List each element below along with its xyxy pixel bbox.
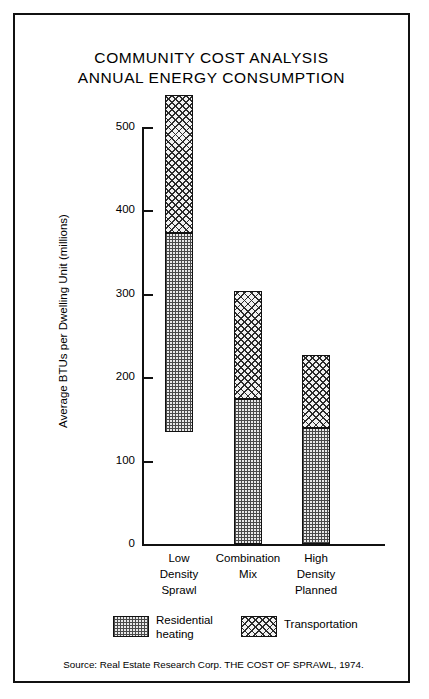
x-axis-line — [142, 544, 385, 546]
y-tick-300 — [144, 294, 153, 296]
legend-label-residential-heating: Residential heating — [156, 613, 213, 641]
y-tick-200 — [144, 377, 153, 379]
legend-label-line-1: Residential — [156, 613, 213, 627]
bar-segment-residential-heating — [302, 428, 330, 544]
bar-segment-residential-heating — [234, 399, 262, 544]
y-tick-label-200: 200 — [91, 370, 135, 382]
bar-segment-transportation — [165, 95, 193, 233]
bar-segment-residential-heating — [165, 233, 193, 432]
chart-legend: Residential heating Transportation — [113, 613, 363, 643]
y-axis-title: Average BTUs per Dwelling Unit (millions… — [57, 211, 69, 431]
bar-segment-transportation — [302, 355, 330, 428]
bar-chart: 500 400 300 200 100 0 Average BTUs per D… — [15, 15, 412, 685]
legend-label-transportation: Transportation — [284, 617, 358, 631]
y-tick-label-500: 500 — [91, 120, 135, 132]
source-note: Source: Real Estate Research Corp. THE C… — [15, 659, 412, 670]
figure-frame: COMMUNITY COST ANALYSIS ANNUAL ENERGY CO… — [13, 13, 410, 683]
x-category-label-high-density-planned: High Density Planned — [264, 550, 368, 598]
legend-label-line-2: heating — [156, 627, 213, 641]
bar-segment-transportation — [234, 291, 262, 399]
y-axis-line — [142, 127, 144, 545]
y-tick-500 — [144, 127, 153, 129]
y-tick-label-0: 0 — [91, 537, 135, 549]
y-tick-label-400: 400 — [91, 203, 135, 215]
legend-swatch-residential-heating — [113, 616, 149, 637]
cat-line-2: Density — [264, 566, 368, 582]
cat-line-1: High — [264, 550, 368, 566]
legend-swatch-transportation — [241, 616, 277, 637]
y-tick-label-100: 100 — [91, 454, 135, 466]
y-tick-0 — [144, 544, 153, 546]
legend-label-line-1: Transportation — [284, 617, 358, 631]
cat-line-3: Planned — [264, 582, 368, 598]
y-tick-100 — [144, 461, 153, 463]
y-tick-label-300: 300 — [91, 287, 135, 299]
y-tick-400 — [144, 210, 153, 212]
cat-line-3: Sprawl — [127, 582, 231, 598]
